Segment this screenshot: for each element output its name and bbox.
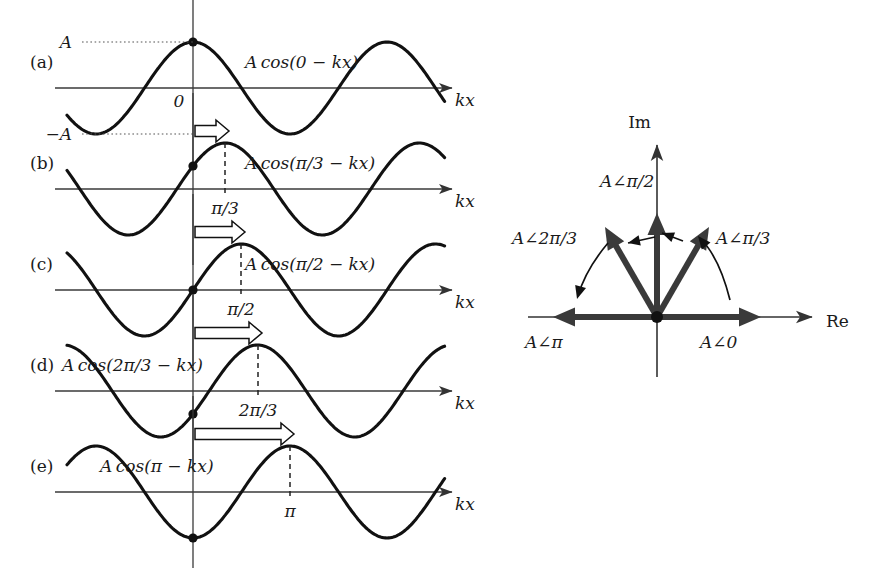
phase-tick-label: π xyxy=(283,501,296,521)
origin-marker-dot xyxy=(188,533,197,542)
waveform-panel: kx2π/3(d)A cos(2π/3 − kx) xyxy=(30,295,475,467)
panel-expression: A cos(0 − kx) xyxy=(243,52,358,72)
panel-tag: (d) xyxy=(30,355,54,375)
x-axis-label: kx xyxy=(455,90,475,110)
phase-shift-block-arrow xyxy=(195,322,262,344)
phasor-arrowhead xyxy=(553,308,575,327)
phase-shift-block-arrow xyxy=(195,120,229,142)
pointer-arrow-right-head xyxy=(662,232,675,242)
origin-marker-dot xyxy=(188,161,197,170)
panel-expression: A cos(π/3 − kx) xyxy=(243,153,375,173)
panel-expression: A cos(2π/3 − kx) xyxy=(60,355,203,375)
phase-shift-block-arrow xyxy=(195,423,294,445)
panel-tag: (e) xyxy=(30,456,53,476)
amplitude-label-negative: −A xyxy=(45,124,72,144)
phase-tick-label: π/2 xyxy=(226,299,255,319)
pointer-arrow-left-head xyxy=(628,235,641,245)
phase-shift-block-arrow xyxy=(195,221,245,243)
origin-label: 0 xyxy=(174,91,185,111)
panel-tag: (b) xyxy=(30,153,54,173)
origin-marker-dot xyxy=(188,285,197,294)
figure-container: kx(a)A cos(0 − kx)A−A0kxπ/3(b)A cos(π/3 … xyxy=(0,0,869,582)
phasor-label: A∠0 xyxy=(698,332,738,352)
phasor-arrowhead xyxy=(648,213,667,235)
imaginary-axis-label: Im xyxy=(628,112,651,132)
phase-tick-label: π/3 xyxy=(210,198,239,218)
waveform-panel: kxπ/3(b)A cos(π/3 − kx) xyxy=(30,93,475,265)
phasor-label: A∠π/3 xyxy=(714,228,770,248)
phasor-stem xyxy=(614,243,657,318)
phase-tick-label: 2π/3 xyxy=(238,400,278,420)
waveform-panels: kx(a)A cos(0 − kx)A−A0kxπ/3(b)A cos(π/3 … xyxy=(30,0,475,568)
amplitude-label-positive: A xyxy=(58,32,72,52)
phasor-diagram: ImReA∠0A∠π/3A∠π/2A∠2π/3A∠π xyxy=(510,112,849,377)
panel-tag: (a) xyxy=(30,52,53,72)
phasor-stem xyxy=(657,243,700,318)
x-axis-label: kx xyxy=(455,191,475,211)
phasor-label: A∠2π/3 xyxy=(510,228,577,248)
x-axis-label: kx xyxy=(455,292,475,312)
x-axis-label: kx xyxy=(455,494,475,514)
panel-expression: A cos(π/2 − kx) xyxy=(243,254,375,274)
phasor-label: A∠π xyxy=(523,332,564,352)
phasor-origin-dot xyxy=(651,311,663,323)
phasor-arrowhead xyxy=(739,308,761,327)
panel-expression: A cos(π − kx) xyxy=(98,456,214,476)
phasor-label: A∠π/2 xyxy=(598,171,654,191)
waveform-panel: kxπ(e)A cos(π − kx) xyxy=(30,396,475,568)
real-axis-label: Re xyxy=(826,311,849,331)
rotation-arc-left-head xyxy=(575,285,586,299)
panel-tag: (c) xyxy=(30,254,53,274)
origin-marker-dot xyxy=(188,37,197,46)
x-axis-label: kx xyxy=(455,393,475,413)
diagram-canvas: kx(a)A cos(0 − kx)A−A0kxπ/3(b)A cos(π/3 … xyxy=(0,0,869,582)
waveform-panel: kx(a)A cos(0 − kx)A−A0 xyxy=(30,0,475,164)
